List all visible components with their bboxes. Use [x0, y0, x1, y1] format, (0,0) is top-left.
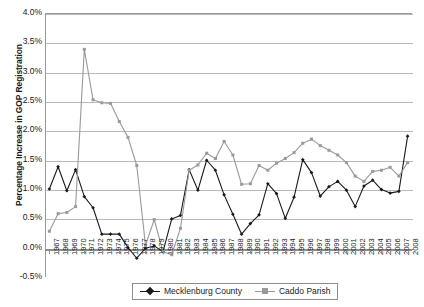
x-axis-tick-label: 1969: [70, 215, 79, 255]
data-point-marker: [389, 166, 392, 169]
x-axis-tick-label: 2003: [367, 215, 376, 255]
data-point-marker: [275, 162, 278, 165]
x-axis-tick-label: 1980: [166, 215, 175, 255]
data-point-marker: [336, 153, 339, 156]
data-point-marker: [48, 187, 52, 191]
x-axis-tick-label: 1971: [87, 215, 96, 255]
x-axis-tick-label: 1979: [157, 215, 166, 255]
x-axis-tick-mark: [172, 250, 173, 254]
data-point-marker: [74, 205, 77, 208]
x-axis-tick-label: 1984: [201, 215, 210, 255]
y-axis-tick-label: 3.5%: [8, 37, 42, 46]
x-axis-tick-mark: [285, 250, 286, 254]
x-axis-tick-mark: [180, 250, 181, 254]
x-axis-tick-label: 2002: [358, 215, 367, 255]
x-axis-tick-mark: [303, 250, 304, 254]
data-point-marker: [74, 168, 78, 172]
x-axis-tick-mark: [163, 250, 164, 254]
x-axis-tick-label: 1976: [131, 215, 140, 255]
x-axis-tick-mark: [84, 250, 85, 254]
data-point-marker: [397, 175, 400, 178]
data-point-marker: [397, 190, 401, 194]
x-axis-tick-label: 1972: [96, 215, 105, 255]
x-axis-tick-mark: [215, 250, 216, 254]
x-axis-tick-label: 1967: [52, 215, 61, 255]
data-point-marker: [266, 169, 269, 172]
data-point-marker: [56, 165, 60, 169]
y-axis-tick-label: 3.0%: [8, 67, 42, 76]
x-axis-tick-mark: [338, 250, 339, 254]
x-axis-tick-mark: [242, 250, 243, 254]
legend-item-caddo-parish[interactable]: Caddo Parish: [255, 286, 331, 296]
data-point-marker: [188, 169, 191, 172]
data-point-marker: [258, 164, 261, 167]
x-axis-tick-mark: [102, 250, 103, 254]
data-point-marker: [240, 183, 243, 186]
data-point-marker: [222, 193, 226, 197]
data-point-marker: [380, 169, 383, 172]
x-axis-tick-mark: [233, 250, 234, 254]
legend-label: Mecklenburg County: [164, 286, 242, 296]
x-axis-tick-label: 1996: [306, 215, 315, 255]
x-axis-tick-mark: [408, 250, 409, 254]
y-axis-tick-label: 1.5%: [8, 155, 42, 164]
x-axis-tick-mark: [390, 250, 391, 254]
x-axis-tick-label: 1973: [105, 215, 114, 255]
data-point-marker: [65, 211, 68, 214]
x-axis-tick-mark: [128, 250, 129, 254]
x-axis-tick-mark: [268, 250, 269, 254]
x-axis-tick-mark: [49, 250, 50, 254]
x-axis-tick-label: 1999: [332, 215, 341, 255]
data-point-marker: [319, 144, 322, 147]
x-axis-tick-mark: [154, 250, 155, 254]
x-axis-tick-label: 1998: [323, 215, 332, 255]
x-axis-tick-mark: [93, 250, 94, 254]
data-point-marker: [362, 180, 365, 183]
x-axis-tick-label: 1968: [61, 215, 70, 255]
data-point-marker: [83, 48, 86, 51]
x-axis-tick-mark: [259, 250, 260, 254]
data-point-marker: [135, 164, 138, 167]
x-axis-tick-mark: [329, 250, 330, 254]
x-axis-tick-mark: [67, 250, 68, 254]
data-point-marker: [301, 142, 304, 145]
x-axis-tick-mark: [119, 250, 120, 254]
data-point-marker: [65, 189, 69, 193]
x-axis-tick-mark: [320, 250, 321, 254]
data-point-marker: [127, 136, 130, 139]
data-point-marker: [92, 98, 95, 101]
x-axis-tick-mark: [355, 250, 356, 254]
data-point-marker: [196, 188, 200, 192]
y-axis-tick-label: -0.5%: [8, 272, 42, 281]
data-point-marker: [223, 140, 226, 143]
x-axis-tick-label: 1983: [192, 215, 201, 255]
data-point-marker: [284, 157, 287, 160]
x-axis-tick-mark: [277, 250, 278, 254]
x-axis-tick-mark: [111, 250, 112, 254]
data-point-marker: [327, 149, 330, 152]
y-axis-tick-label: 2.0%: [8, 125, 42, 134]
x-axis-tick-label: 1988: [236, 215, 245, 255]
y-axis-tick-label: 0.5%: [8, 213, 42, 222]
x-axis-tick-label: 2007: [402, 215, 411, 255]
x-axis-tick-mark: [250, 250, 251, 254]
y-axis-tick-label: 1.0%: [8, 184, 42, 193]
x-axis-tick-label: 1991: [262, 215, 271, 255]
legend-item-mecklenburg-county[interactable]: Mecklenburg County: [140, 286, 242, 296]
data-point-marker: [196, 163, 199, 166]
chart-legend: Mecklenburg County Caddo Parish: [132, 283, 338, 300]
x-axis-tick-mark: [189, 250, 190, 254]
data-point-marker: [292, 195, 296, 199]
data-point-marker: [406, 161, 409, 164]
data-point-marker: [388, 191, 392, 195]
data-point-marker: [205, 152, 208, 155]
x-axis-tick-mark: [137, 250, 138, 254]
x-axis-tick-label: 1995: [297, 215, 306, 255]
data-point-marker: [214, 157, 217, 160]
x-axis-tick-label: 1992: [271, 215, 280, 255]
x-axis-tick-mark: [294, 250, 295, 254]
chart-figure: Percentage Increase in GOP Registration …: [0, 0, 424, 307]
data-point-marker: [231, 153, 234, 156]
data-point-marker: [354, 175, 357, 178]
x-axis-tick-mark: [381, 250, 382, 254]
